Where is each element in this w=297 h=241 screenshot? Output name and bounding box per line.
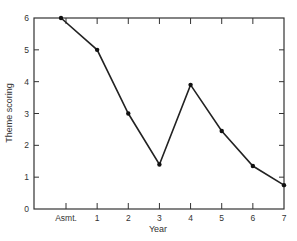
data-point-marker xyxy=(157,162,161,166)
x-axis-ticks: Asmt.1234567 xyxy=(55,18,287,223)
x-tick-label: 5 xyxy=(219,213,224,223)
x-tick-label: 1 xyxy=(95,213,100,223)
series-line xyxy=(61,18,284,185)
data-point-marker xyxy=(188,83,192,87)
x-tick-label: 4 xyxy=(188,213,193,223)
plot-border xyxy=(34,18,284,209)
x-tick-label: 6 xyxy=(250,213,255,223)
x-axis-title: Year xyxy=(149,224,167,234)
data-point-marker xyxy=(282,183,286,187)
y-tick-label: 4 xyxy=(24,77,29,87)
x-tick-label: 3 xyxy=(157,213,162,223)
y-tick-label: 6 xyxy=(24,13,29,23)
data-series xyxy=(59,16,286,188)
y-tick-label: 1 xyxy=(24,172,29,182)
data-point-marker xyxy=(59,16,63,20)
y-tick-label: 0 xyxy=(24,204,29,214)
data-point-marker xyxy=(126,111,130,115)
data-point-marker xyxy=(220,129,224,133)
y-axis-ticks: 0123456 xyxy=(24,13,284,214)
plot-frame xyxy=(34,18,284,209)
x-tick-label: Asmt. xyxy=(55,213,77,223)
data-point-marker xyxy=(95,48,99,52)
y-tick-label: 5 xyxy=(24,45,29,55)
x-tick-label: 7 xyxy=(282,213,287,223)
x-tick-label: 2 xyxy=(126,213,131,223)
y-axis-title: Theme scoring xyxy=(4,83,14,143)
y-tick-label: 2 xyxy=(24,140,29,150)
y-tick-label: 3 xyxy=(24,109,29,119)
data-point-marker xyxy=(251,164,255,168)
line-chart: 0123456 Asmt.1234567 Theme scoring Year xyxy=(0,0,297,241)
